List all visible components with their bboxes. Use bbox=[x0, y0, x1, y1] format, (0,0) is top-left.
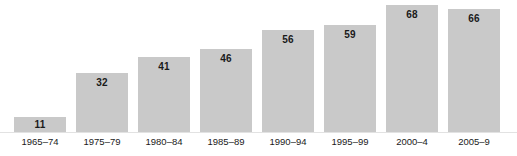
x-axis-tick-labels: 1965–74 1975–79 1980–84 1985–89 1990–94 … bbox=[0, 134, 517, 156]
plot-area: 11 32 41 46 56 59 68 66 bbox=[0, 0, 517, 132]
bar[interactable] bbox=[386, 5, 438, 132]
x-tick-label: 2000–4 bbox=[386, 136, 438, 148]
bar[interactable] bbox=[262, 30, 314, 132]
bar-value-label: 66 bbox=[448, 13, 500, 24]
bar[interactable] bbox=[448, 9, 500, 132]
x-tick-label: 1985–89 bbox=[200, 136, 252, 148]
x-axis-baseline bbox=[0, 132, 517, 133]
bar-group: 66 bbox=[448, 9, 500, 132]
bar-value-label: 68 bbox=[386, 9, 438, 20]
bar-value-label: 46 bbox=[200, 53, 252, 64]
bar-value-label: 32 bbox=[76, 77, 128, 88]
bar-value-label: 56 bbox=[262, 34, 314, 45]
bar-group: 68 bbox=[386, 5, 438, 132]
bar-group: 11 bbox=[14, 117, 66, 132]
bar-value-label: 11 bbox=[14, 119, 66, 130]
bar-group: 46 bbox=[200, 49, 252, 132]
x-tick-label: 1995–99 bbox=[324, 136, 376, 148]
bar-group: 59 bbox=[324, 25, 376, 132]
bar-group: 56 bbox=[262, 30, 314, 132]
x-tick-label: 1965–74 bbox=[14, 136, 66, 148]
bar-group: 32 bbox=[76, 73, 128, 132]
x-tick-label: 1990–94 bbox=[262, 136, 314, 148]
bar-group: 41 bbox=[138, 57, 190, 132]
x-tick-label: 1980–84 bbox=[138, 136, 190, 148]
bar-chart: 11 32 41 46 56 59 68 66 bbox=[0, 0, 517, 156]
x-tick-label: 2005–9 bbox=[448, 136, 500, 148]
bar[interactable] bbox=[324, 25, 376, 132]
bar-value-label: 41 bbox=[138, 61, 190, 72]
bar-value-label: 59 bbox=[324, 29, 376, 40]
x-tick-label: 1975–79 bbox=[76, 136, 128, 148]
